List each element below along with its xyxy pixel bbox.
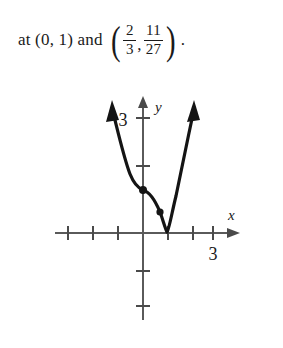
fraction-denominator: 27 <box>144 42 163 58</box>
fraction-two-thirds: 2 3 <box>123 23 136 58</box>
page-root: at (0, 1) and ( 2 3 , 11 27 ) . <box>0 0 283 348</box>
sentence-period: . <box>181 30 185 50</box>
marked-point-0-1 <box>139 186 147 194</box>
curve-left-arrowhead <box>106 100 119 122</box>
ordered-pair-group: ( 2 3 , 11 27 ) <box>109 23 178 58</box>
x-axis-arrowhead <box>227 228 240 238</box>
x-axis-label: x <box>227 207 235 223</box>
y-tick-label-3: 3 <box>119 110 128 130</box>
x-tick-label-3: 3 <box>209 244 218 264</box>
equation-text-line: at (0, 1) and ( 2 3 , 11 27 ) . <box>18 16 268 64</box>
coordinate-plane-svg: 3 y x 3 <box>0 72 283 348</box>
marked-point-two-thirds <box>156 208 163 215</box>
fraction-eleven-twentysevenths: 11 27 <box>144 23 163 58</box>
function-curve <box>113 112 193 232</box>
curve-right-arrowhead <box>187 100 200 122</box>
text-lead: at (0, 1) and <box>18 30 103 50</box>
fraction-numerator: 2 <box>124 23 136 39</box>
y-axis-arrowhead <box>138 96 148 108</box>
y-axis-label: y <box>153 99 162 115</box>
fraction-numerator: 11 <box>144 23 163 39</box>
pair-separator: , <box>137 35 141 57</box>
fraction-denominator: 3 <box>124 42 136 58</box>
graph-figure: 3 y x 3 <box>0 72 283 348</box>
